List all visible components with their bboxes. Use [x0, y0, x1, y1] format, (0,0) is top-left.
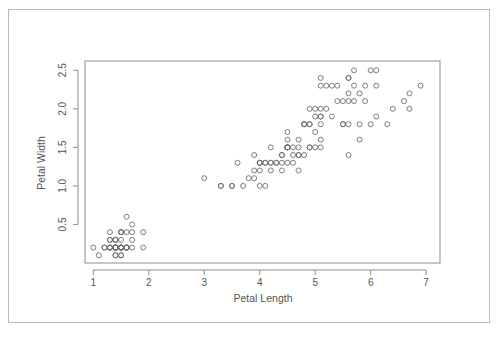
data-point: [124, 214, 129, 219]
y-axis-tick-label: 1.5: [57, 140, 68, 154]
y-axis-title: Petal Width: [35, 136, 47, 190]
data-point: [119, 237, 124, 242]
data-point: [130, 237, 135, 242]
data-point: [119, 253, 124, 258]
data-point: [246, 176, 251, 181]
data-point: [335, 99, 340, 104]
x-axis-tick-label: 6: [368, 277, 374, 288]
data-point: [291, 145, 296, 150]
data-point: [268, 145, 273, 150]
data-point: [119, 245, 124, 250]
data-point: [374, 68, 379, 73]
data-point: [107, 230, 112, 235]
data-point: [274, 160, 279, 165]
data-point: [113, 237, 118, 242]
data-point: [357, 91, 362, 96]
data-point: [401, 99, 406, 104]
data-point: [318, 83, 323, 88]
data-point: [257, 160, 262, 165]
data-point: [313, 145, 318, 150]
x-axis-tick-label: 4: [257, 277, 263, 288]
x-axis: 1234567: [91, 270, 430, 288]
data-point: [302, 153, 307, 158]
data-point: [279, 160, 284, 165]
data-point: [385, 122, 390, 127]
data-point: [141, 230, 146, 235]
y-axis-tick-label: 2.5: [57, 63, 68, 77]
data-point: [357, 137, 362, 142]
x-axis-tick-label: 7: [423, 277, 429, 288]
data-point: [357, 122, 362, 127]
scatter-plot: 1234567 0.51.01.52.02.5 Petal Length Pet…: [0, 0, 498, 339]
data-point: [418, 83, 423, 88]
data-point: [130, 245, 135, 250]
data-point: [285, 137, 290, 142]
data-point: [407, 106, 412, 111]
data-point: [285, 129, 290, 134]
x-axis-tick-label: 5: [312, 277, 318, 288]
x-axis-title: Petal Length: [234, 292, 293, 304]
y-axis-tick-label: 2.0: [57, 101, 68, 115]
data-point: [291, 160, 296, 165]
data-point: [352, 99, 357, 104]
data-point: [124, 245, 129, 250]
data-point: [335, 83, 340, 88]
y-axis-tick-label: 1.0: [57, 179, 68, 193]
data-point: [130, 230, 135, 235]
data-point: [318, 106, 323, 111]
data-point: [302, 122, 307, 127]
data-point: [268, 160, 273, 165]
data-point: [268, 168, 273, 173]
data-point: [91, 245, 96, 250]
data-point: [346, 153, 351, 158]
data-point: [279, 168, 284, 173]
data-point: [324, 83, 329, 88]
data-point: [291, 153, 296, 158]
data-point: [107, 237, 112, 242]
data-point: [252, 168, 257, 173]
data-point: [263, 160, 268, 165]
data-point: [296, 145, 301, 150]
data-point: [102, 245, 107, 250]
data-point: [340, 122, 345, 127]
data-point: [346, 75, 351, 80]
data-point: [352, 83, 357, 88]
data-point: [318, 114, 323, 119]
data-point: [313, 106, 318, 111]
data-point: [340, 99, 345, 104]
x-axis-tick-label: 3: [201, 277, 207, 288]
data-point: [318, 145, 323, 150]
data-point: [363, 99, 368, 104]
data-point: [374, 114, 379, 119]
x-axis-tick-label: 2: [146, 277, 152, 288]
data-points: [91, 68, 423, 258]
data-point: [285, 160, 290, 165]
data-point: [96, 253, 101, 258]
data-point: [390, 106, 395, 111]
data-point: [107, 245, 112, 250]
y-axis: 0.51.01.52.02.5: [57, 63, 78, 232]
data-point: [279, 153, 284, 158]
data-point: [368, 68, 373, 73]
data-point: [307, 122, 312, 127]
data-point: [346, 99, 351, 104]
data-point: [346, 122, 351, 127]
data-point: [313, 129, 318, 134]
y-axis-tick-label: 0.5: [57, 217, 68, 231]
data-point: [407, 91, 412, 96]
data-point: [363, 83, 368, 88]
data-point: [119, 230, 124, 235]
data-point: [307, 106, 312, 111]
data-point: [257, 183, 262, 188]
data-point: [352, 68, 357, 73]
data-point: [296, 168, 301, 173]
data-point: [141, 245, 146, 250]
data-point: [324, 106, 329, 111]
data-point: [296, 153, 301, 158]
data-point: [313, 114, 318, 119]
data-point: [307, 145, 312, 150]
data-point: [130, 222, 135, 227]
data-point: [296, 137, 301, 142]
data-point: [241, 183, 246, 188]
data-point: [124, 230, 129, 235]
